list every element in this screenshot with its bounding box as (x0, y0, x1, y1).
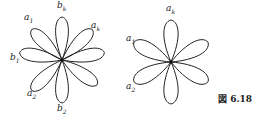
right-center-point (169, 60, 172, 63)
petal-label-b-2: b2 (57, 104, 67, 115)
petal-label-a-1: a1 (24, 13, 33, 24)
petal-label-a-k: ak (91, 21, 100, 32)
petal (20, 48, 62, 62)
petal (134, 62, 171, 84)
petal (134, 40, 171, 62)
petal (171, 62, 208, 84)
figure-caption: 図 6.18 (218, 92, 252, 105)
left-center-point (60, 58, 63, 61)
petal-label-a-1: a1 (126, 34, 135, 45)
petal (62, 60, 98, 86)
petal-label-a-2: a2 (27, 89, 36, 100)
petal-label-a-2: a2 (126, 82, 135, 93)
petal-label-b-1: b1 (10, 53, 20, 64)
petal-label-a-k: ak (166, 4, 175, 15)
petal-label-b-k: bk (57, 1, 66, 12)
petal (171, 40, 208, 62)
petal (62, 48, 104, 62)
petal (56, 17, 69, 60)
